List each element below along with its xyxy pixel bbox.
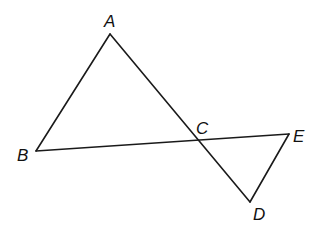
segment-ed	[250, 134, 289, 202]
vertex-label-c: C	[196, 119, 209, 138]
diagram-svg: ABCDE	[0, 0, 319, 233]
segment-ad	[110, 34, 250, 202]
segment-be	[36, 134, 289, 151]
vertex-label-d: D	[253, 205, 265, 224]
segment-ab	[36, 34, 110, 151]
vertex-label-a: A	[103, 12, 115, 31]
vertex-label-b: B	[17, 146, 28, 165]
vertex-labels: ABCDE	[17, 12, 305, 224]
geometry-diagram: ABCDE	[0, 0, 319, 233]
vertex-label-e: E	[293, 127, 305, 146]
segments	[36, 34, 289, 202]
